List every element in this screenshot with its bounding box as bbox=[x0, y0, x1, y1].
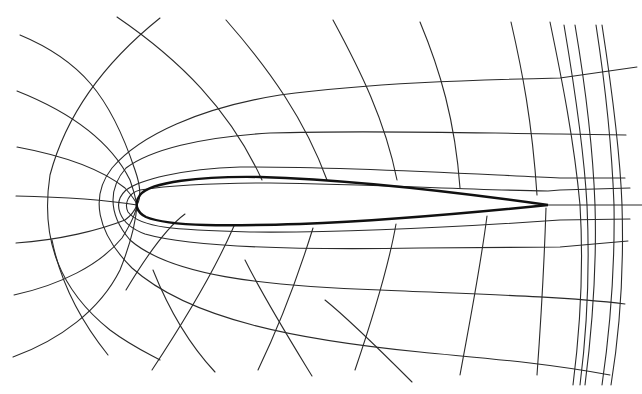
airfoil-mesh-diagram bbox=[0, 0, 642, 394]
background bbox=[0, 0, 642, 394]
